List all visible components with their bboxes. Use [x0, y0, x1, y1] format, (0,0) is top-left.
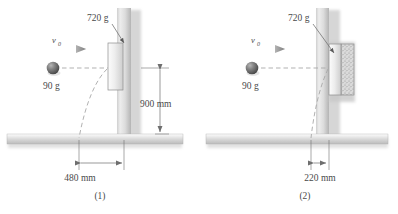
ground-slab	[7, 134, 183, 144]
ball-mass-label-1: 90 g	[43, 81, 60, 91]
velocity-label-1: v	[52, 35, 56, 45]
panel-2: v 0 90 g 720 g 220 mm (2)	[206, 8, 388, 202]
ground-slab-2	[206, 134, 388, 144]
figure-canvas: v 0 90 g 720 g 900 mm 480 mm (1)	[0, 0, 398, 214]
ball-90g-2	[246, 62, 259, 75]
horizontal-dimension-label-2: 220 mm	[304, 173, 336, 183]
physics-figure: v 0 90 g 720 g 900 mm 480 mm (1)	[0, 0, 398, 214]
block-720g	[108, 43, 123, 90]
cushion-pad	[341, 44, 354, 95]
block-mass-label-1: 720 g	[87, 13, 109, 23]
rebound-trajectory-dashed	[79, 69, 107, 138]
panel-caption-1: (1)	[94, 191, 105, 202]
panel-caption-2: (2)	[299, 191, 310, 202]
ball-mass-label-2: 90 g	[242, 81, 259, 91]
horizontal-dimension-label-1: 480 mm	[64, 173, 96, 183]
vertical-dimension-label-1: 900 mm	[140, 99, 172, 109]
block-720g-2	[329, 44, 341, 95]
velocity-subscript-2: 0	[257, 41, 260, 47]
velocity-label-2: v	[251, 35, 255, 45]
panel-1: v 0 90 g 720 g 900 mm 480 mm (1)	[7, 8, 183, 202]
wall-column-2	[316, 8, 329, 138]
block-mass-label-2: 720 g	[288, 13, 310, 23]
ball-90g	[47, 62, 60, 75]
velocity-subscript-1: 0	[58, 41, 61, 47]
